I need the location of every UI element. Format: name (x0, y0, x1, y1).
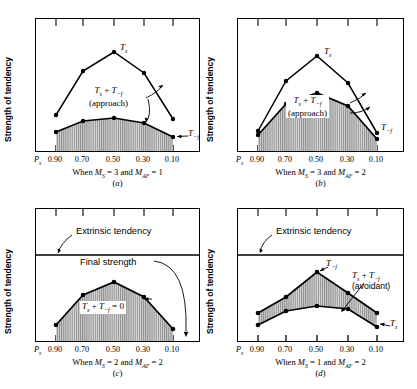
x-axis-symbol-a: Ps (34, 155, 41, 166)
panel-label-b: (b) (237, 178, 404, 188)
label-ts-plus-tnegf-a: Ts + T−f(approach) (87, 85, 130, 108)
y-axis-label-c: Strength of tendency (3, 222, 13, 334)
top-ticks-c (56, 209, 173, 216)
label-ts-plus-tnegf-d: Ts + T−f(avoidant) (352, 271, 390, 292)
xtick-d-2: 0.50 (304, 345, 328, 354)
xtick-b-2: 0.50 (304, 155, 328, 164)
xtick-c-2: 0.50 (101, 345, 125, 354)
figure-panel-grid: Strength of tendency (0, 0, 417, 389)
xtick-c-0: 0.90 (43, 345, 67, 354)
plot-area-c: Extrinsic tendency Final strength Ts + T… (35, 208, 200, 342)
xtick-b-1: 0.70 (273, 155, 297, 164)
label-ts-a: Ts (120, 43, 127, 54)
label-extrinsic-tendency-c: Extrinsic tendency (75, 226, 152, 236)
xtick-c-4: 0.10 (160, 345, 184, 354)
label-ts-plus-tnegf-zero-c: Ts + T−f = 0 (80, 301, 126, 314)
label-ts-d: Ts (390, 319, 397, 330)
final-strength-arrowhead-c (184, 332, 189, 337)
extrinsic-leader-d (260, 235, 272, 252)
plot-area-a: Ts Ts + T−f(approach) T−f (35, 18, 200, 152)
y-axis-label-d: Strength of tendency (205, 222, 215, 334)
tnegf-pointer-a (177, 135, 188, 139)
x-axis-symbol-b: Ps (236, 155, 243, 166)
label-tnegf-d: T−f (326, 259, 337, 270)
top-ticks-a (56, 19, 173, 26)
xtick-b-0: 0.90 (245, 155, 269, 164)
xtick-c-3: 0.30 (131, 345, 155, 354)
top-ticks-d (258, 209, 377, 216)
xtick-a-3: 0.30 (131, 155, 155, 164)
arrowheads-a (145, 85, 163, 122)
caption-b: When MS = 3 and MAF = 2 (237, 167, 404, 179)
label-tnegf-b: T−f (381, 123, 392, 134)
caption-d: When MS = 1 and MAF = 2 (237, 357, 404, 369)
x-axis-symbol-c: Ps (34, 345, 41, 356)
xtick-c-1: 0.70 (70, 345, 94, 354)
x-axis-symbol-d: Ps (236, 345, 243, 356)
label-ts-b: Ts (324, 47, 331, 58)
xtick-d-4: 0.10 (364, 345, 388, 354)
xtick-a-2: 0.50 (101, 155, 125, 164)
xtick-a-1: 0.70 (70, 155, 94, 164)
y-axis-label-b: Strength of tendency (205, 30, 215, 142)
plot-area-b: Ts Ts + T−f(approach) T−f (237, 18, 404, 152)
xtick-d-1: 0.70 (273, 345, 297, 354)
top-ticks-b (258, 19, 377, 26)
panel-label-c: (c) (35, 368, 200, 378)
label-ts-plus-tnegf-b: Ts + T−f(approach) (286, 95, 329, 118)
label-extrinsic-tendency-d: Extrinsic tendency (275, 226, 352, 236)
shaded-region-a (56, 118, 173, 152)
xtick-b-3: 0.30 (335, 155, 359, 164)
label-final-strength-c: Final strength (79, 257, 137, 267)
xtick-d-0: 0.90 (245, 345, 269, 354)
xtick-b-4: 0.10 (364, 155, 388, 164)
y-axis-label-a: Strength of tendency (3, 30, 13, 142)
panel-label-d: (d) (237, 368, 404, 378)
ts-pointer-d (380, 323, 390, 327)
xtick-a-4: 0.10 (160, 155, 184, 164)
plot-svg-b (238, 19, 404, 152)
xtick-a-0: 0.90 (43, 155, 67, 164)
label-tnegf-a: T−f (188, 129, 199, 140)
xtick-d-3: 0.30 (335, 345, 359, 354)
bottom-ticks-d (258, 335, 377, 342)
plot-area-d: Extrinsic tendency T−f Ts + T−f(avoidant… (237, 208, 404, 342)
caption-a: When MS = 3 and MAF = 1 (35, 167, 200, 179)
panel-label-a: (a) (35, 178, 200, 188)
caption-c: When MS = 2 and MAF = 2 (35, 357, 200, 369)
